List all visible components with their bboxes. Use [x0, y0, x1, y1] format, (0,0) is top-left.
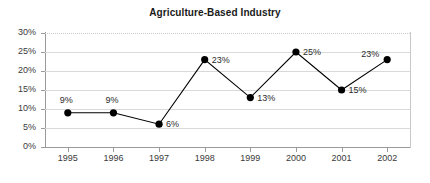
data-point-label: 9% — [60, 95, 73, 105]
y-axis-tick-label: 0% — [2, 141, 36, 151]
data-point-marker — [338, 86, 345, 93]
x-axis-tick-mark — [296, 148, 297, 152]
data-point-marker — [201, 56, 208, 63]
y-axis-tick-label: 30% — [2, 27, 36, 37]
x-axis-tick-label: 2000 — [273, 153, 319, 163]
data-point-marker — [292, 48, 299, 55]
plot-area: 9%9%6%23%13%25%15%23% — [45, 33, 410, 147]
x-axis-line — [45, 147, 411, 148]
data-point-label: 23% — [212, 55, 230, 65]
x-axis-tick-mark — [387, 148, 388, 152]
x-axis-tick-mark — [342, 148, 343, 152]
data-point-label: 13% — [257, 93, 275, 103]
x-axis-tick-label: 1995 — [45, 153, 91, 163]
data-point-label: 25% — [303, 47, 321, 57]
y-axis-tick-label: 20% — [2, 65, 36, 75]
y-axis-tick-mark — [41, 147, 45, 148]
x-axis-tick-label: 1996 — [90, 153, 136, 163]
chart-title: Agriculture-Based Industry — [0, 7, 430, 18]
data-point-marker — [384, 56, 391, 63]
y-axis-tick-label: 5% — [2, 122, 36, 132]
y-axis-tick-label: 15% — [2, 84, 36, 94]
x-axis-tick-mark — [159, 148, 160, 152]
x-axis-tick-mark — [68, 148, 69, 152]
x-axis-tick-label: 2001 — [319, 153, 365, 163]
data-point-marker — [247, 94, 254, 101]
y-axis-tick-label: 10% — [2, 103, 36, 113]
x-axis-tick-label: 1999 — [227, 153, 273, 163]
x-axis-tick-mark — [113, 148, 114, 152]
data-point-label: 23% — [361, 49, 379, 59]
data-point-marker — [64, 109, 71, 116]
data-point-label: 6% — [166, 119, 179, 129]
data-point-marker — [155, 121, 162, 128]
data-point-label: 9% — [105, 95, 118, 105]
data-point-marker — [110, 109, 117, 116]
data-point-label: 15% — [349, 85, 367, 95]
x-axis-tick-mark — [250, 148, 251, 152]
x-axis-tick-label: 1998 — [182, 153, 228, 163]
y-axis-tick-label: 25% — [2, 46, 36, 56]
chart-container: Agriculture-Based Industry 30%25%20%15%1… — [0, 0, 430, 183]
x-axis-tick-label: 2002 — [364, 153, 410, 163]
x-axis-tick-mark — [205, 148, 206, 152]
x-axis-tick-label: 1997 — [136, 153, 182, 163]
plot-right-border — [410, 32, 411, 148]
